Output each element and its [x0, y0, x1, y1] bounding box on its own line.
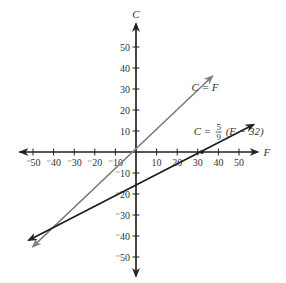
equation-label-c-equals-five-ninths: C = 5 9 (F − 32)	[194, 122, 264, 142]
x-axis-label: F	[263, 146, 271, 158]
y-tick-label: 50	[120, 42, 130, 53]
y-axis-label: C	[132, 8, 140, 20]
x-tick-label: 50	[234, 157, 244, 168]
y-tick-label: 10	[120, 126, 130, 137]
labels: F C C = F C = 5 9 (F − 32)	[132, 8, 270, 158]
axes	[19, 24, 258, 276]
y-tick-label: 30	[120, 84, 130, 95]
x-tick-label: ⁻20	[87, 157, 102, 168]
chart: ⁻50⁻40⁻30⁻20⁻1010203040505040302010⁻10⁻2…	[0, 0, 286, 283]
fraction-numerator: 5	[216, 122, 221, 132]
x-tick-label: ⁻30	[67, 157, 82, 168]
y-tick-label: ⁻40	[115, 231, 130, 242]
x-tick-label: 40	[213, 157, 223, 168]
y-tick-label: ⁻50	[115, 252, 130, 263]
y-tick-label: ⁻10	[115, 168, 130, 179]
equation-label-c-equals-f: C = F	[192, 81, 219, 93]
marked-point	[200, 150, 204, 154]
y-tick-label: ⁻30	[115, 210, 130, 221]
fraction-denominator: 9	[216, 132, 221, 142]
x-tick-label: 10	[152, 157, 162, 168]
x-tick-label: ⁻50	[26, 157, 41, 168]
series-line-2-reverse	[29, 125, 254, 241]
equation-rhs: (F − 32)	[226, 125, 264, 138]
x-tick-label: 30	[193, 157, 203, 168]
x-tick-label: ⁻40	[46, 157, 61, 168]
y-tick-label: 40	[120, 63, 130, 74]
equation-lhs: C =	[194, 125, 212, 137]
y-tick-label: ⁻20	[115, 189, 130, 200]
y-tick-label: 20	[120, 105, 130, 116]
